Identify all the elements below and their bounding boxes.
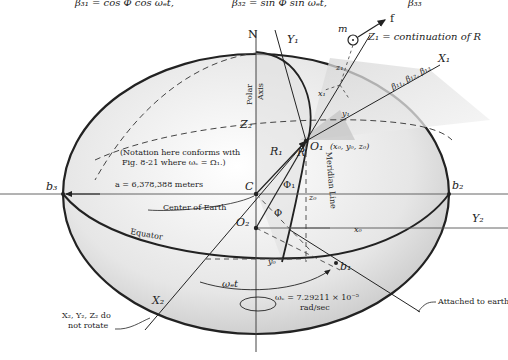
label-center-of-earth: Center of Earth bbox=[163, 203, 226, 212]
formula-beta32: β₃₂ = sin Φ sin ωₑt, bbox=[231, 0, 327, 8]
label-no-rotate-2: not rotate bbox=[68, 321, 109, 330]
label-force: f bbox=[390, 12, 395, 25]
label-o1: O₁ bbox=[310, 140, 323, 153]
label-omega-value: ωₑ = 7.29211 × 10⁻⁵ bbox=[275, 293, 359, 302]
label-center-c: C bbox=[245, 180, 254, 193]
label-semi-axis: a = 6,378,388 meters bbox=[115, 180, 203, 189]
label-axis: Axis bbox=[256, 83, 265, 101]
label-y0: y₀ bbox=[267, 257, 277, 266]
note-line-1: (Notation here conforms with bbox=[120, 148, 240, 157]
label-z1-component: z₁ bbox=[335, 63, 343, 72]
label-y2: Y₂ bbox=[472, 212, 484, 225]
label-b2: b₂ bbox=[452, 179, 463, 192]
label-x1-component: x₁ bbox=[318, 89, 326, 98]
no-rotate-leader bbox=[115, 318, 150, 329]
label-phi: Φ bbox=[274, 207, 282, 218]
label-mass: m bbox=[338, 23, 347, 34]
b1-point bbox=[334, 261, 338, 265]
label-r: R bbox=[296, 146, 305, 159]
b2-point bbox=[447, 192, 451, 196]
label-z1: Z₁ = continuation of R bbox=[367, 31, 482, 42]
label-x2: X₂ bbox=[151, 294, 164, 307]
o1-point bbox=[304, 139, 308, 143]
earth-coordinate-diagram: β₃₁ = cos Φ cos ωₑt, β₃₂ = sin Φ sin ωₑt… bbox=[0, 0, 508, 360]
label-b3: b₃ bbox=[46, 180, 57, 193]
label-omega-t: ωₑt bbox=[222, 278, 239, 289]
note-line-2: Fig. 8-21 where ωₑ = Ω₁.) bbox=[122, 158, 226, 167]
formula-beta31: β₃₁ = cos Φ cos ωₑt, bbox=[74, 0, 174, 8]
label-b1: b₁ bbox=[340, 260, 351, 273]
label-attached-to-earth: Attached to earth bbox=[437, 297, 508, 306]
formula-beta33: β₃₃ bbox=[407, 0, 422, 8]
label-y1: Y₁ bbox=[287, 33, 299, 46]
label-r1: R₁ bbox=[269, 145, 283, 158]
header-formula: β₃₁ = cos Φ cos ωₑt, β₃₂ = sin Φ sin ωₑt… bbox=[74, 0, 422, 8]
b3-point bbox=[61, 192, 65, 196]
label-north: N bbox=[248, 28, 258, 41]
label-x1: X₁ bbox=[437, 52, 450, 65]
label-x0: x₀ bbox=[354, 225, 363, 234]
mass-center-dot bbox=[352, 39, 354, 41]
attached-leader bbox=[418, 302, 436, 312]
label-polar: Polar bbox=[245, 84, 254, 105]
label-no-rotate-1: X₂, Y₂, Z₂ do bbox=[62, 311, 111, 320]
label-y1-component: y₁ bbox=[341, 109, 350, 118]
center-c-point bbox=[254, 192, 258, 196]
label-o1-coords: (x₀, y₀, z₀) bbox=[330, 142, 369, 151]
label-phi1: Φ₁ bbox=[283, 179, 295, 190]
label-omega-units: rad/sec bbox=[300, 303, 330, 312]
label-o2: O₂ bbox=[236, 216, 249, 229]
label-z0: z₀ bbox=[308, 193, 317, 202]
label-z2: Z₂ bbox=[239, 118, 252, 131]
o2-point bbox=[254, 226, 258, 230]
